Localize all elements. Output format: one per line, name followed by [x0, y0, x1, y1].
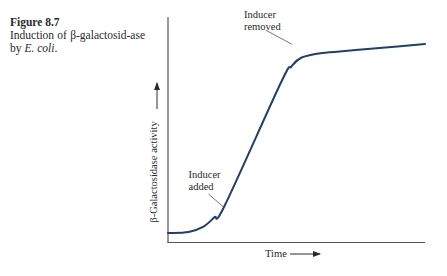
inducer-added-label-line1: Inducer — [189, 169, 222, 180]
inducer-added-label-line2: added — [189, 181, 215, 192]
induction-chart: β-Galactosidase activity Time Inducer ad… — [0, 0, 447, 276]
inducer-removed-label-line2: removed — [244, 21, 281, 32]
inducer-removed-label-line1: Inducer — [244, 9, 277, 20]
inducer-added-leader-line — [209, 194, 224, 207]
x-axis-label: Time — [265, 248, 287, 259]
y-axis-label: β-Galactosidase activity — [148, 121, 159, 223]
inducer-removed-leader-line — [266, 30, 292, 44]
activity-curve — [168, 44, 425, 233]
